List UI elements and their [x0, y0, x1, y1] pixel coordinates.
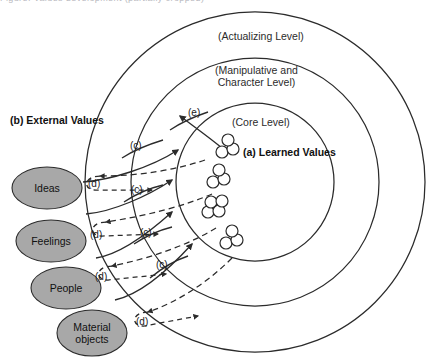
cluster-4: [220, 225, 243, 249]
label-external-values: (b) External Values: [10, 114, 104, 126]
label-manipulative-character-level: (Manipulative and Character Level): [215, 64, 298, 89]
cluster-1: [216, 134, 239, 158]
circle-actualizing-level: [85, 12, 425, 352]
label-actualizing-level: (Actualizing Level): [218, 30, 304, 42]
flow-tag-d-2: (d): [90, 229, 102, 241]
hook-c-2: [124, 185, 163, 202]
dashed-d-1: [100, 160, 205, 176]
flow-tag-c-1: (c): [130, 140, 142, 152]
dashed-return-hooks: [87, 176, 198, 326]
arrow-c-3: [96, 212, 172, 258]
hook-c-1: [122, 140, 163, 158]
diagram-vector-layer: [0, 0, 436, 360]
flow-tag-e: (e): [188, 107, 200, 119]
flow-tag-c-2: (c): [131, 184, 143, 196]
label-learned-values: (a) Learned Values: [243, 146, 336, 158]
cluster-2: [207, 164, 230, 188]
level-circles: [85, 12, 425, 352]
ellipse-material-objects: [57, 310, 127, 356]
flow-tag-d-1: (d): [88, 178, 100, 190]
dashed-d-2: [106, 194, 212, 222]
flow-tag-c-3: (c): [140, 227, 152, 239]
flow-tag-c-4: (c): [156, 259, 168, 271]
ellipse-feelings: [16, 220, 86, 262]
label-manipulative-line1: (Manipulative and: [215, 64, 298, 76]
figure-canvas: Figure. Values development (partially cr…: [0, 0, 436, 360]
flow-tag-d-3: (d): [95, 271, 107, 283]
label-core-level: (Core Level): [232, 116, 290, 128]
flow-tag-d-4: (d): [136, 316, 148, 328]
ellipse-ideas: [12, 167, 82, 209]
ellipse-people: [31, 267, 101, 309]
source-ellipses: [12, 167, 127, 356]
label-manipulative-line2: Character Level): [215, 76, 298, 88]
value-clusters: [202, 134, 243, 249]
cluster-3: [202, 195, 228, 218]
